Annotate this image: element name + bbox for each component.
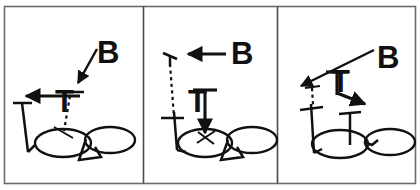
panel-2-label-b: B <box>231 36 253 71</box>
panel-3-dashed-link <box>312 88 313 105</box>
three-panel-diagram: B T B <box>0 0 420 190</box>
panel-1-label-t: T <box>55 84 74 119</box>
figure-root: B T B <box>0 0 420 190</box>
panel-3-label-b: B <box>377 40 399 75</box>
panel-1-label-b: B <box>97 35 119 70</box>
